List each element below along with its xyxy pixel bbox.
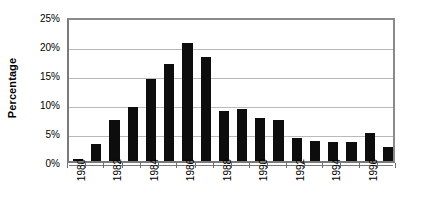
y-tick-label: 0%	[46, 158, 60, 169]
x-tick-label: 1992	[275, 168, 315, 181]
x-tick-label: 1982	[93, 168, 133, 181]
x-tick	[395, 163, 396, 168]
bar	[365, 133, 375, 161]
bar	[219, 111, 229, 161]
bar	[91, 144, 101, 161]
bar	[201, 57, 211, 161]
y-axis-title: Percentage	[0, 0, 24, 175]
x-tick-label-text: 1996	[368, 159, 379, 181]
bar	[109, 120, 119, 161]
bars-layer	[69, 20, 393, 161]
x-tick-label-text: 1992	[295, 159, 306, 181]
bar	[383, 147, 393, 161]
x-tick-label: 1996	[348, 168, 388, 181]
x-tick-label: 1994	[311, 168, 351, 181]
bar	[146, 79, 156, 161]
bar	[182, 43, 192, 161]
x-tick-label-text: 1980	[76, 159, 87, 181]
x-tick-label: 1984	[129, 168, 169, 181]
x-tick-label: 1980	[56, 168, 96, 181]
plot-area	[67, 18, 395, 163]
x-tick-label-text: 1994	[331, 159, 342, 181]
bar	[273, 120, 283, 161]
x-tick-label-text: 1982	[113, 159, 124, 181]
bar	[310, 141, 320, 161]
x-tick-label-text: 1990	[258, 159, 269, 181]
y-axis-title-label: Percentage	[6, 57, 18, 117]
bar	[237, 109, 247, 161]
bar-chart: Percentage 0%5%10%15%20%25% 198019821984…	[0, 0, 424, 216]
bar	[292, 138, 302, 161]
y-tick-label: 25%	[40, 13, 60, 24]
y-tick-label: 15%	[40, 71, 60, 82]
x-tick-label-text: 1986	[185, 159, 196, 181]
bar	[164, 64, 174, 161]
y-tick-label: 20%	[40, 42, 60, 53]
bar	[128, 107, 138, 161]
y-axis-tick-labels: 0%5%10%15%20%25%	[22, 18, 64, 163]
bar	[346, 142, 356, 161]
x-axis-tick-labels: 198019821984198619881990199219941996	[67, 168, 395, 214]
x-tick-label: 1986	[165, 168, 205, 181]
x-tick-label: 1988	[202, 168, 242, 181]
y-tick-label: 5%	[46, 129, 60, 140]
y-tick-label: 10%	[40, 100, 60, 111]
x-tick-label: 1990	[238, 168, 278, 181]
bar	[255, 118, 265, 161]
x-tick-label-text: 1988	[222, 159, 233, 181]
x-tick-label-text: 1984	[149, 159, 160, 181]
